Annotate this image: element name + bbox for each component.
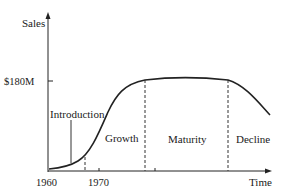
sales-curve: [49, 78, 270, 169]
y-axis-arrow-icon: [46, 12, 51, 19]
x-tick-label-1970: 1970: [88, 177, 109, 188]
product-life-cycle-diagram: Sales $180M 1960 1970 Time Introduction …: [0, 0, 288, 193]
stage-label-growth: Growth: [105, 132, 139, 144]
x-tick-label-1960: 1960: [36, 177, 57, 188]
y-tick-label: $180M: [4, 76, 35, 87]
x-axis-label: Time: [249, 176, 272, 188]
stage-label-maturity: Maturity: [168, 133, 207, 145]
x-axis-arrow-icon: [265, 169, 272, 174]
stage-label-introduction: Introduction: [50, 108, 105, 120]
stage-label-decline: Decline: [236, 133, 270, 145]
y-axis-label: Sales: [22, 17, 45, 29]
